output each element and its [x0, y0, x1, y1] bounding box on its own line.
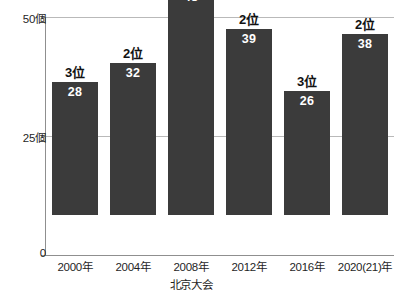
x-axis-category-label: 2020(21)年 — [336, 258, 394, 274]
x-axis-tick-label: 2008年北京大会 — [162, 258, 220, 292]
x-axis-category-label: 2012年 — [220, 258, 278, 274]
x-axis-labels: 2000年2004年2008年北京大会2012年2016年2020(21)年 — [46, 258, 394, 295]
x-axis-tick-label: 2012年 — [220, 258, 278, 274]
bar[interactable]: 26 — [284, 91, 330, 215]
y-tick-label-0: 0 — [2, 247, 46, 259]
bar-rank-label: 2位 — [110, 43, 156, 62]
bar-rank-label: 3位 — [52, 62, 98, 81]
bar-rank-label: 2位 — [342, 14, 388, 33]
bar-value-label: 38 — [342, 37, 388, 51]
x-axis-category-label: 2000年 — [46, 258, 104, 274]
bar-value-label: 26 — [284, 94, 330, 108]
bar-value-label: 28 — [52, 85, 98, 99]
bar[interactable]: 38 — [342, 34, 388, 215]
bar-slot: 283位 — [46, 0, 104, 255]
x-axis-sublabel: 北京大会 — [162, 276, 220, 292]
x-axis-category-label: 2016年 — [278, 258, 336, 274]
x-axis-tick-label: 2000年 — [46, 258, 104, 274]
x-axis-category-label: 2004年 — [104, 258, 162, 274]
bar-chart: 50個 25個 0 283位322位481位392位263位382位 2000年… — [0, 0, 402, 295]
x-axis-tick-label: 2020(21)年 — [336, 258, 394, 274]
bar-slot: 481位 — [162, 0, 220, 255]
x-axis-line — [46, 255, 394, 256]
y-tick-label-25: 25個 — [2, 129, 46, 145]
bar-value-label: 39 — [226, 32, 272, 46]
bar-rank-label: 3位 — [284, 71, 330, 90]
bar[interactable]: 48 — [168, 0, 214, 215]
y-tick-label-50: 50個 — [2, 10, 46, 26]
bars-container: 283位322位481位392位263位382位 — [46, 0, 394, 255]
bar[interactable]: 32 — [110, 63, 156, 215]
bar-slot: 322位 — [104, 0, 162, 255]
bar[interactable]: 39 — [226, 29, 272, 215]
bar-value-label: 32 — [110, 66, 156, 80]
bar-rank-label: 2位 — [226, 9, 272, 28]
x-axis-tick-label: 2004年 — [104, 258, 162, 274]
bar[interactable]: 28 — [52, 82, 98, 215]
bar-value-label: 48 — [168, 0, 214, 4]
x-axis-category-label: 2008年 — [162, 258, 220, 274]
bar-slot: 392位 — [220, 0, 278, 255]
x-axis-tick-label: 2016年 — [278, 258, 336, 274]
bar-slot: 263位 — [278, 0, 336, 255]
bar-slot: 382位 — [336, 0, 394, 255]
